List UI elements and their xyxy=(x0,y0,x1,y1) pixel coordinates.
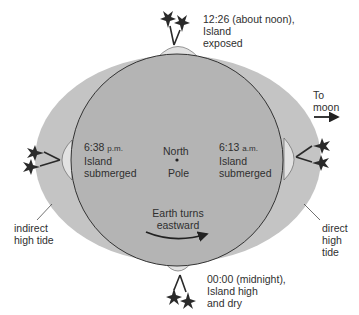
label-noon: 12:26 (about noon), Island exposed xyxy=(203,13,295,49)
label-rotation-line1: Earth turns xyxy=(150,207,206,219)
label-morning-line3: submerged xyxy=(219,167,272,179)
label-midnight-time: 00:00 (midnight), xyxy=(207,273,286,285)
label-direct-line2: high xyxy=(322,234,348,246)
label-midnight-line3: and dry xyxy=(207,297,286,309)
label-indirect-high-tide: indirect high tide xyxy=(14,222,54,246)
palm-tree-top-icon xyxy=(160,11,190,45)
north-pole-dot xyxy=(175,158,178,161)
label-rotation: Earth turns eastward xyxy=(150,207,206,231)
label-evening-line2: Island xyxy=(84,155,137,167)
label-north: North xyxy=(163,145,189,157)
label-moon-line1: To xyxy=(313,89,339,101)
label-direct-line3: tide xyxy=(322,246,348,258)
palm-tree-bottom-icon xyxy=(166,275,196,309)
label-moon-line2: moon xyxy=(313,101,339,113)
label-evening-line3: submerged xyxy=(84,167,137,179)
label-evening-time: 6:38 p.m. xyxy=(84,141,137,155)
label-midnight-line2: Island high xyxy=(207,285,286,297)
direct-leader-line xyxy=(304,204,320,220)
label-evening: 6:38 p.m. Island submerged xyxy=(84,141,137,179)
label-morning: 6:13 a.m. Island submerged xyxy=(219,141,272,179)
tide-diagram xyxy=(0,0,359,315)
label-morning-time: 6:13 a.m. xyxy=(219,141,272,155)
label-pole: Pole xyxy=(168,167,189,179)
label-midnight: 00:00 (midnight), Island high and dry xyxy=(207,273,286,309)
label-noon-line3: exposed xyxy=(203,37,295,49)
indirect-leader-line xyxy=(37,204,52,220)
label-morning-line2: Island xyxy=(219,155,272,167)
label-indirect-line2: high tide xyxy=(14,234,54,246)
label-direct-line1: direct xyxy=(322,222,348,234)
label-direct-high-tide: direct high tide xyxy=(322,222,348,258)
label-rotation-line2: eastward xyxy=(150,219,206,231)
label-noon-line2: Island xyxy=(203,25,295,37)
label-indirect-line1: indirect xyxy=(14,222,54,234)
label-moon: To moon xyxy=(313,89,339,113)
label-noon-time: 12:26 (about noon), xyxy=(203,13,295,25)
